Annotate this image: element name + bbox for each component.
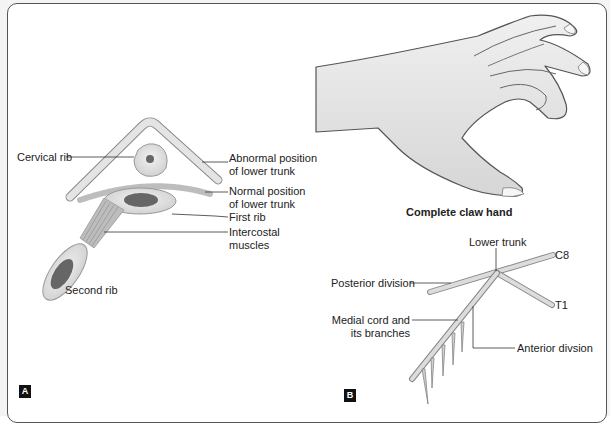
- label-medial-cord-line1: Medial cord and: [330, 314, 410, 327]
- label-cervical-rib: Cervical rib: [17, 151, 72, 164]
- label-first-rib: First rib: [229, 211, 266, 224]
- label-c8: C8: [555, 249, 569, 262]
- panel-a-drawing: [35, 122, 228, 307]
- label-second-rib: Second rib: [65, 284, 118, 297]
- caption-complete-claw-hand: Complete claw hand: [406, 206, 512, 218]
- label-lower-trunk: Lower trunk: [469, 236, 526, 249]
- panel-b-tag: B: [344, 389, 356, 402]
- label-t1: T1: [555, 299, 568, 312]
- label-intercostal-line2: muscles: [229, 239, 269, 252]
- label-posterior-division: Posterior division: [331, 277, 409, 290]
- label-normal-position-line2: of lower trunk: [229, 198, 295, 211]
- label-normal-position-line1: Normal position: [229, 185, 305, 198]
- panel-a-tag: A: [19, 385, 31, 398]
- nerve-diagram: [410, 248, 553, 404]
- label-anterior-division: Anterior divsion: [517, 342, 593, 355]
- label-intercostal-line1: Intercostal: [229, 226, 280, 239]
- claw-hand-drawing: [316, 15, 590, 196]
- label-medial-cord-line2: its branches: [330, 327, 410, 340]
- label-abnormal-position-line1: Abnormal position: [229, 152, 317, 165]
- label-abnormal-position-line2: of lower trunk: [229, 165, 295, 178]
